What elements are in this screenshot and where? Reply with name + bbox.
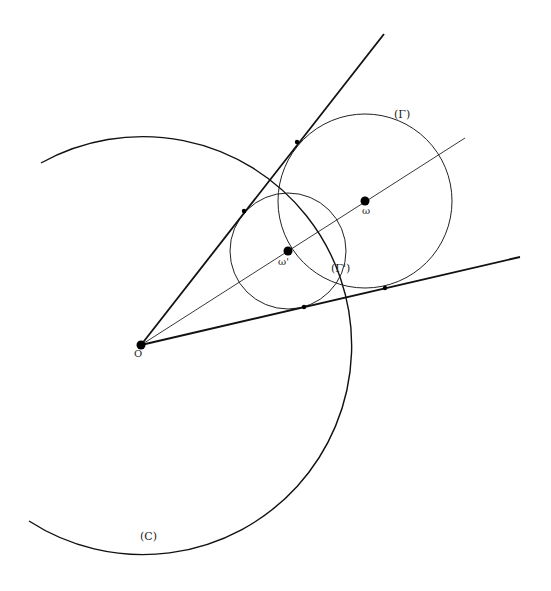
- label-gamma-prime: (Γ'): [331, 262, 350, 275]
- tangent-point-lower-gamma-prime: [302, 305, 306, 309]
- circle-C-arc: [29, 137, 352, 555]
- label-C: (C): [140, 530, 157, 543]
- tangent-point-upper-gamma: [295, 140, 299, 144]
- tangent-point-upper-gamma-prime: [242, 209, 246, 213]
- upper-tangent-line: [141, 34, 384, 345]
- label-O: O: [134, 348, 142, 359]
- point-omega-prime: [284, 247, 293, 256]
- label-omega-prime: ω': [278, 256, 289, 267]
- label-gamma: (Γ): [394, 108, 410, 121]
- label-omega: ω: [362, 205, 370, 216]
- center-axis-line: [141, 138, 465, 345]
- tangent-point-lower-gamma: [383, 286, 387, 290]
- geometry-diagram: O ω ω' (Γ) (Γ') (C): [0, 0, 551, 591]
